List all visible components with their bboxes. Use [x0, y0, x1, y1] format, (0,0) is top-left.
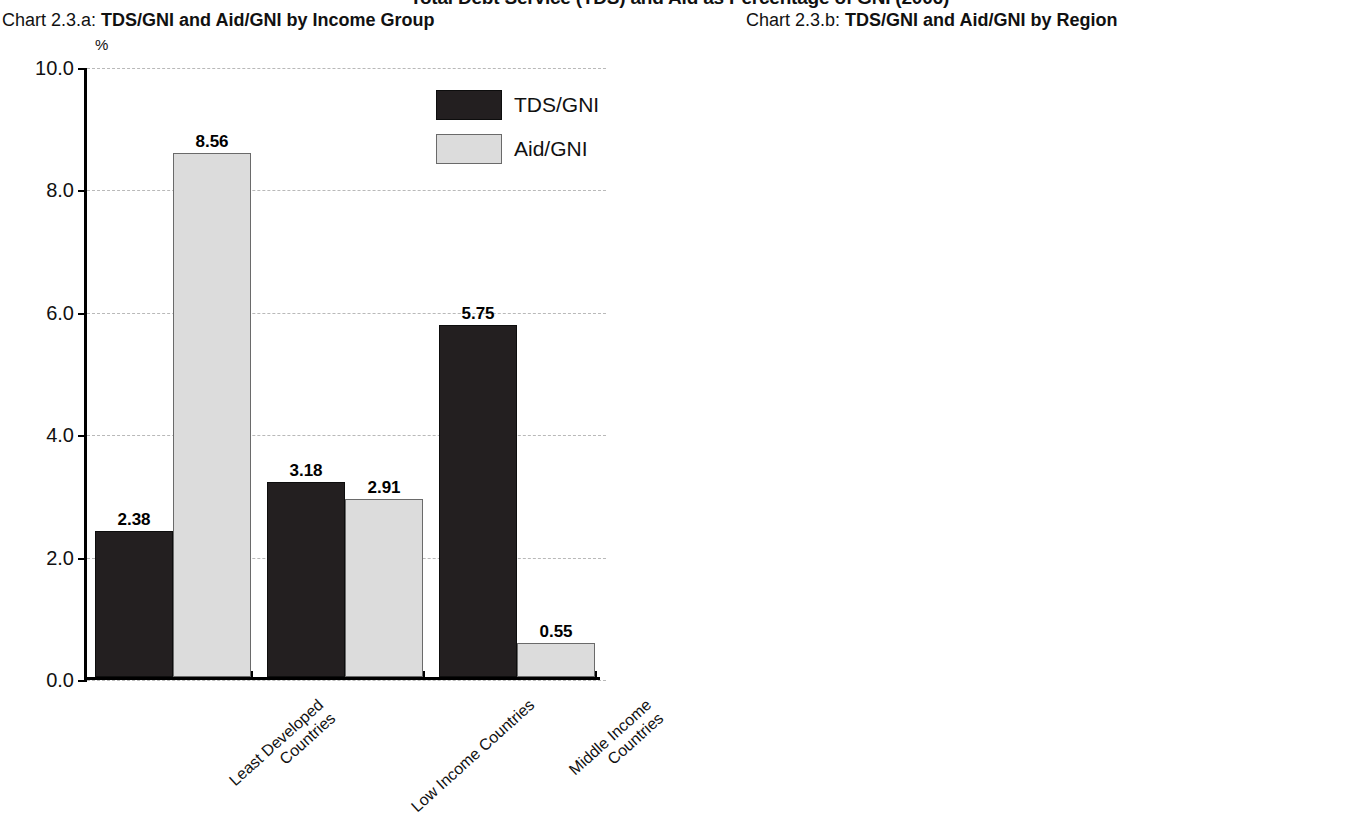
- y-axis-tick-label: 6.0: [46, 301, 74, 324]
- bar-aid: 0.55: [517, 643, 595, 677]
- x-axis-category-label: Middle IncomeCountries: [566, 696, 667, 792]
- bar-value-label: 2.91: [367, 478, 400, 498]
- bar-aid: 2.91: [345, 499, 423, 677]
- y-axis-tick: [78, 68, 87, 70]
- bar-value-label: 5.75: [461, 304, 494, 324]
- bar-value-label: 2.38: [117, 510, 150, 530]
- y-axis-tick: [78, 558, 87, 560]
- legend-label-aid: Aid/GNI: [514, 137, 588, 161]
- y-axis-tick-label: 0.0: [46, 669, 74, 692]
- x-axis-tick: [423, 671, 425, 680]
- chart-a-legend: TDS/GNI Aid/GNI: [436, 90, 599, 178]
- bar-tds: 5.75: [439, 325, 517, 677]
- legend-swatch-aid-icon: [436, 134, 502, 164]
- chart-a-title: Chart 2.3.a: TDS/GNI and Aid/GNI by Inco…: [2, 10, 434, 31]
- chart-panel-b: Chart 2.3.b: TDS/GNI and Aid/GNI by Regi…: [679, 0, 1359, 817]
- x-axis-category-label: Least DevelopedCountries: [226, 696, 339, 803]
- y-axis-tick: [78, 313, 87, 315]
- gridline: [87, 435, 606, 436]
- x-axis-tick: [251, 671, 253, 680]
- chart-page: Total Debt Service (TDS) and Aid as Perc…: [0, 0, 1359, 817]
- chart-a-unit-label: %: [95, 36, 108, 53]
- y-axis-tick: [78, 680, 87, 682]
- legend-swatch-tds-icon: [436, 90, 502, 120]
- chart-b-title-bold: TDS/GNI and Aid/GNI by Region: [845, 10, 1117, 30]
- y-axis-tick: [78, 435, 87, 437]
- category-label-line: Low Income Countries: [408, 696, 538, 816]
- gridline: [87, 680, 606, 681]
- legend-item-aid: Aid/GNI: [436, 134, 599, 164]
- gridline: [87, 68, 606, 69]
- y-axis-tick: [78, 190, 87, 192]
- chart-a-title-lead: Chart 2.3.a:: [2, 10, 101, 30]
- x-axis-tick: [595, 671, 597, 680]
- gridline: [87, 190, 606, 191]
- y-axis-tick-label: 2.0: [46, 546, 74, 569]
- y-axis-tick-label: 10.0: [35, 57, 74, 80]
- legend-label-tds: TDS/GNI: [514, 93, 599, 117]
- legend-item-tds: TDS/GNI: [436, 90, 599, 120]
- x-axis-category-label: Low Income Countries: [408, 696, 538, 816]
- bar-aid: 8.56: [173, 153, 251, 677]
- bar-value-label: 3.18: [289, 461, 322, 481]
- chart-a-title-bold: TDS/GNI and Aid/GNI by Income Group: [101, 10, 434, 30]
- bar-tds: 2.38: [95, 531, 173, 677]
- bar-tds: 3.18: [267, 482, 345, 677]
- y-axis-tick-label: 8.0: [46, 179, 74, 202]
- chart-b-title: Chart 2.3.b: TDS/GNI and Aid/GNI by Regi…: [746, 10, 1117, 31]
- gridline: [87, 313, 606, 314]
- chart-panel-a: Chart 2.3.a: TDS/GNI and Aid/GNI by Inco…: [0, 0, 680, 817]
- bar-value-label: 0.55: [539, 622, 572, 642]
- y-axis-tick-label: 4.0: [46, 424, 74, 447]
- bar-value-label: 8.56: [195, 132, 228, 152]
- chart-b-title-lead: Chart 2.3.b:: [746, 10, 845, 30]
